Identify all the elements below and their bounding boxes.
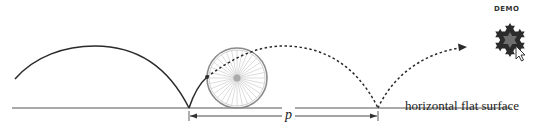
rolling-wheel <box>207 48 267 108</box>
period-label: p <box>282 107 295 123</box>
surface-label: horizontal flat surface <box>405 98 519 114</box>
cycloid-rise-solid <box>189 77 207 108</box>
wheel-hub <box>234 75 241 82</box>
arrow-head-icon <box>458 44 467 52</box>
dimension-arrow-right-icon <box>370 114 377 119</box>
cycloid-arch-solid <box>15 46 189 108</box>
demo-badge-label: DEMO <box>494 5 520 13</box>
dimension-arrow-left-icon <box>190 114 197 119</box>
